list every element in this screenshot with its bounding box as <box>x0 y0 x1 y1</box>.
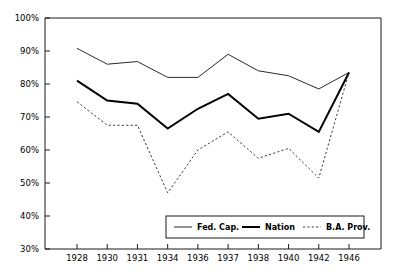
y-tick-label: 40% <box>20 211 39 221</box>
y-tick-label: 100% <box>15 13 39 23</box>
legend-label: B.A. Prov. <box>326 223 370 232</box>
axis-frame <box>45 18 381 249</box>
y-tick-label: 90% <box>20 46 39 56</box>
x-tick-label: 1934 <box>157 253 179 263</box>
x-tick-label: 1937 <box>217 253 239 263</box>
x-tick-label: 1931 <box>127 253 149 263</box>
x-tick-label: 1940 <box>278 253 300 263</box>
x-axis-ticks: 1928193019311934193619371938194019421946 <box>66 244 360 263</box>
series-line-nation <box>77 72 349 131</box>
legend-label: Nation <box>265 223 295 232</box>
y-tick-label: 30% <box>20 244 39 254</box>
series-line-b-a-prov <box>77 72 349 192</box>
series-layer <box>77 48 349 193</box>
y-tick-label: 50% <box>20 178 39 188</box>
x-tick-label: 1946 <box>338 253 360 263</box>
line-chart: 30%40%50%60%70%80%90%100% 19281930193119… <box>0 0 393 275</box>
x-tick-label: 1936 <box>187 253 209 263</box>
series-line-fed-cap <box>77 48 349 89</box>
x-tick-label: 1928 <box>66 253 88 263</box>
y-tick-label: 60% <box>20 145 39 155</box>
x-tick-label: 1930 <box>96 253 118 263</box>
x-tick-label: 1942 <box>308 253 330 263</box>
y-tick-label: 80% <box>20 79 39 89</box>
y-tick-label: 70% <box>20 112 39 122</box>
x-tick-label: 1938 <box>248 253 270 263</box>
legend-label: Fed. Cap. <box>197 223 239 232</box>
chart-canvas: 30%40%50%60%70%80%90%100% 19281930193119… <box>0 0 393 275</box>
chart-legend: Fed. Cap.NationB.A. Prov. <box>166 216 370 238</box>
